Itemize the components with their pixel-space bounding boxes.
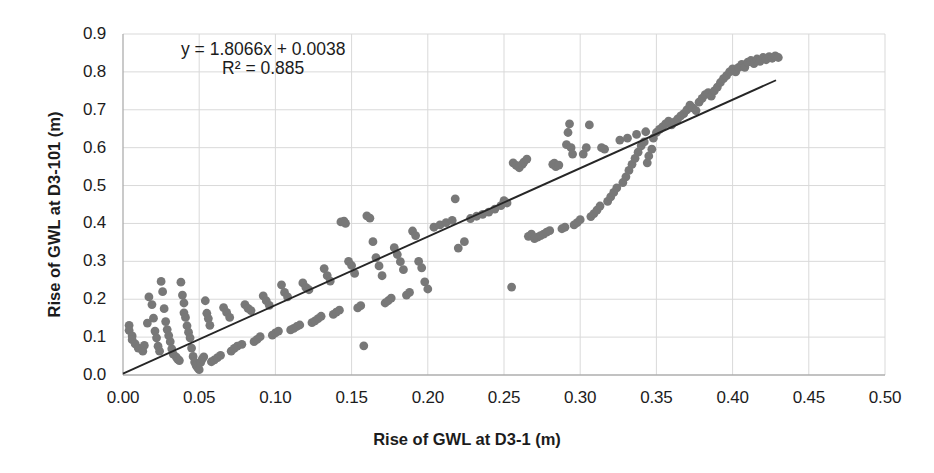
data-point <box>522 155 531 164</box>
trendline-r2-label: R² = 0.885 <box>222 58 304 79</box>
y-tick-label: 0.0 <box>40 365 106 385</box>
data-point <box>157 277 166 286</box>
data-point <box>256 332 265 341</box>
data-point <box>149 314 158 323</box>
data-point <box>237 340 246 349</box>
data-point <box>359 341 368 350</box>
data-point <box>369 237 378 246</box>
x-tick-label: 0.30 <box>564 388 596 408</box>
data-point <box>378 271 387 280</box>
x-tick-label: 0.05 <box>183 388 215 408</box>
data-point <box>423 285 432 294</box>
data-point <box>417 263 426 272</box>
data-point <box>692 106 701 115</box>
data-point <box>148 300 157 309</box>
data-point <box>181 313 190 322</box>
data-point <box>175 356 184 365</box>
x-tick-label: 0.25 <box>488 388 520 408</box>
data-point <box>568 150 577 159</box>
data-point <box>274 327 283 336</box>
data-point <box>186 333 195 342</box>
trendline <box>123 80 776 373</box>
x-tick-label: 0.20 <box>412 388 444 408</box>
x-axis-title: Rise of GWL at D3-1 (m) <box>0 430 934 449</box>
data-point <box>145 293 154 302</box>
data-points <box>125 52 783 375</box>
data-point <box>396 257 405 266</box>
data-point <box>405 288 414 297</box>
data-point <box>561 223 570 232</box>
data-point <box>180 299 189 308</box>
data-point <box>160 304 169 313</box>
data-point <box>554 161 563 170</box>
trendline-path <box>123 80 776 373</box>
data-point <box>317 312 326 321</box>
data-point <box>140 341 149 350</box>
data-point <box>216 351 225 360</box>
data-point <box>387 294 396 303</box>
data-point <box>576 215 585 224</box>
data-point <box>774 53 783 62</box>
data-point <box>341 219 350 228</box>
data-point <box>399 265 408 274</box>
data-point <box>335 306 344 315</box>
data-point <box>365 214 374 223</box>
data-point <box>596 202 605 211</box>
data-point <box>507 283 516 292</box>
data-point <box>641 127 650 136</box>
data-point <box>632 130 641 139</box>
x-tick-label: 0.40 <box>716 388 748 408</box>
x-tick-label: 0.35 <box>640 388 672 408</box>
data-point <box>155 347 164 356</box>
data-point <box>460 237 469 246</box>
data-point <box>451 194 460 203</box>
data-point <box>615 136 624 145</box>
data-point <box>295 321 304 330</box>
data-point <box>582 143 591 152</box>
data-point <box>545 226 554 235</box>
x-tick-label: 0.00 <box>107 388 139 408</box>
data-point <box>199 352 208 361</box>
x-tick-label: 0.45 <box>793 388 825 408</box>
data-point <box>177 278 186 287</box>
data-point <box>647 145 656 154</box>
y-tick-label: 0.9 <box>40 24 106 44</box>
data-point <box>178 291 187 300</box>
data-point <box>585 121 594 130</box>
scatter-chart: 0.00.10.20.30.40.50.60.70.80.9 0.000.050… <box>0 0 934 473</box>
data-point <box>158 287 167 296</box>
data-point <box>161 317 170 326</box>
data-point <box>375 261 384 270</box>
data-point <box>454 244 463 253</box>
data-point <box>564 128 573 137</box>
data-point <box>277 280 286 289</box>
trendline-equation-label: y = 1.8066x + 0.0038 <box>181 39 345 60</box>
data-point <box>600 145 609 154</box>
data-point <box>356 301 365 310</box>
data-point <box>411 231 420 240</box>
data-point <box>565 119 574 128</box>
y-axis-title: Rise of GWL at D3-101 (m) <box>45 65 64 365</box>
x-tick-label: 0.15 <box>335 388 367 408</box>
x-tick-label: 0.50 <box>869 388 901 408</box>
data-point <box>623 134 632 143</box>
data-point <box>201 296 210 305</box>
data-point <box>152 333 161 342</box>
x-tick-label: 0.10 <box>259 388 291 408</box>
data-point <box>225 313 234 322</box>
data-point <box>205 321 214 330</box>
